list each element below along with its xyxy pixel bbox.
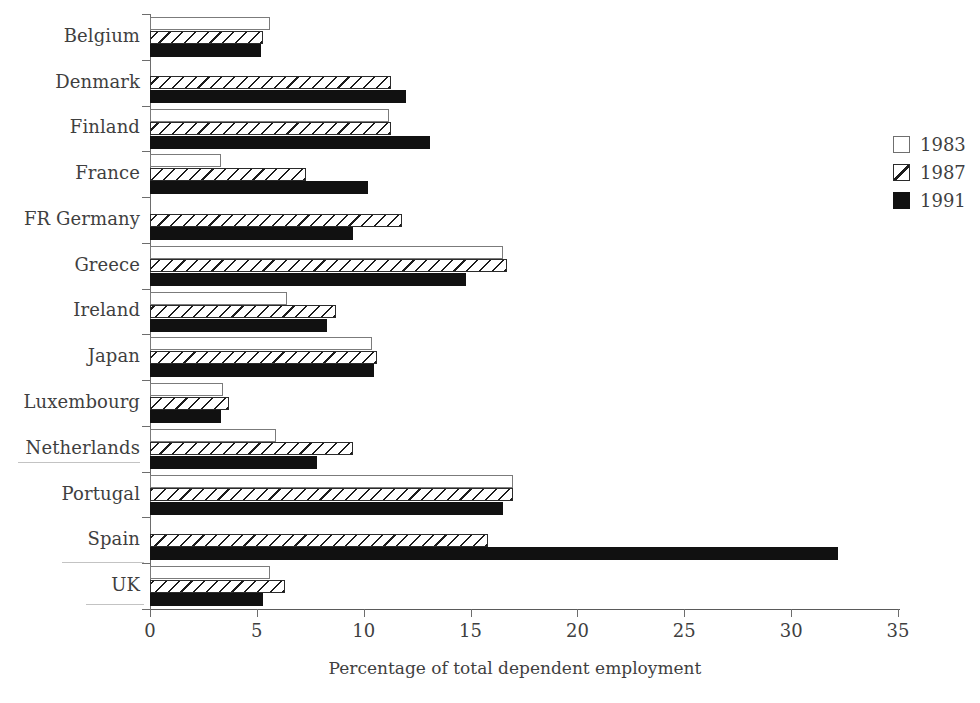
category-group: France [0,151,980,197]
y-axis-tick [142,563,150,564]
bar-denmark-1991 [150,90,406,103]
x-axis-tick-label-15: 15 [451,620,491,641]
category-label-denmark: Denmark [0,71,140,92]
category-group: Belgium [0,14,980,60]
bar-uk-1987 [150,580,285,593]
category-label-belgium: Belgium [0,25,140,46]
bar-belgium-1983 [150,17,270,30]
category-group: FR Germany [0,197,980,243]
x-axis-line [150,609,900,610]
y-axis-tick [142,14,150,15]
bar-ireland-1983 [150,292,287,305]
category-label-portugal: Portugal [0,483,140,504]
x-axis-tick-10 [364,609,365,617]
category-group: Portugal [0,472,980,518]
category-label-ireland: Ireland [0,299,140,320]
bar-belgium-1991 [150,44,261,57]
x-axis-tick-35 [898,609,899,617]
bar-netherlands-1983 [150,429,276,442]
bar-greece-1983 [150,246,503,259]
bar-uk-1983 [150,566,270,579]
bar-spain-1991 [150,547,838,560]
category-group: Japan [0,334,980,380]
category-group: Luxembourg [0,380,980,426]
y-axis-tick [142,197,150,198]
bar-japan-1987 [150,351,377,364]
bar-chart: 05101520253035 Percentage of total depen… [0,0,980,703]
bar-luxembourg-1983 [150,383,223,396]
x-axis-tick-15 [471,609,472,617]
x-axis-tick-25 [684,609,685,617]
bar-fr-germany-1987 [150,214,402,227]
bar-portugal-1987 [150,488,513,501]
y-axis-tick [142,472,150,473]
bar-france-1983 [150,154,221,167]
x-axis-tick-label-30: 30 [771,620,811,641]
y-axis-tick [142,380,150,381]
bar-netherlands-1987 [150,442,353,455]
bar-ireland-1991 [150,319,327,332]
bar-belgium-1987 [150,31,263,44]
category-group: UK [0,563,980,609]
y-axis-tick [142,426,150,427]
x-axis-tick-label-35: 35 [878,620,918,641]
y-axis-tick [142,243,150,244]
category-group: Denmark [0,60,980,106]
x-axis-tick-label-25: 25 [664,620,704,641]
y-axis-tick [142,60,150,61]
y-axis-tick [142,151,150,152]
category-label-greece: Greece [0,254,140,275]
bar-spain-1987 [150,534,488,547]
category-group: Netherlands [0,426,980,472]
bar-greece-1991 [150,273,466,286]
category-label-japan: Japan [0,345,140,366]
bar-portugal-1991 [150,502,503,515]
category-group: Ireland [0,289,980,335]
y-axis-tick [142,334,150,335]
category-group: Greece [0,243,980,289]
x-axis-tick-30 [791,609,792,617]
x-axis-tick-20 [577,609,578,617]
category-label-fr-germany: FR Germany [0,208,140,229]
bar-finland-1991 [150,136,430,149]
bar-finland-1987 [150,122,391,135]
bar-fr-germany-1991 [150,227,353,240]
bar-japan-1983 [150,337,372,350]
x-axis-tick-label-0: 0 [130,620,170,641]
category-label-spain: Spain [0,528,140,549]
bar-finland-1983 [150,109,389,122]
bar-france-1991 [150,181,368,194]
category-label-uk: UK [0,574,140,595]
bar-luxembourg-1987 [150,397,229,410]
bar-france-1987 [150,168,306,181]
category-label-finland: Finland [0,116,140,137]
x-axis-tick-0 [150,609,151,617]
bar-greece-1987 [150,259,507,272]
bar-portugal-1983 [150,475,513,488]
y-axis-tick [142,106,150,107]
y-axis-tick [142,289,150,290]
bar-netherlands-1991 [150,456,317,469]
bar-ireland-1987 [150,305,336,318]
category-label-france: France [0,162,140,183]
category-label-luxembourg: Luxembourg [0,391,140,412]
bar-uk-1991 [150,593,263,606]
x-axis-tick-label-5: 5 [237,620,277,641]
bar-japan-1991 [150,364,374,377]
bar-luxembourg-1991 [150,410,221,423]
x-axis-tick-label-10: 10 [344,620,384,641]
y-axis-tick [142,609,150,610]
x-axis-title: Percentage of total dependent employment [0,658,980,678]
x-axis-tick-label-20: 20 [557,620,597,641]
category-group: Spain [0,517,980,563]
y-axis-tick [142,517,150,518]
category-group: Finland [0,106,980,152]
bar-denmark-1987 [150,76,391,89]
x-axis-tick-5 [257,609,258,617]
category-label-netherlands: Netherlands [0,437,140,458]
